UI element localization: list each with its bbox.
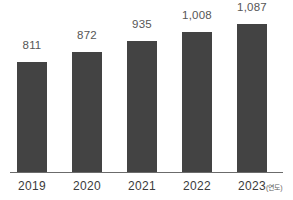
bar-value-2020: 872	[77, 30, 97, 42]
bar-group-2020: 872	[72, 0, 102, 173]
category-label-2019: 2019	[6, 179, 58, 193]
bar-value-2019: 811	[23, 40, 42, 52]
plot-area: 811 872 935 1,008 1,087	[0, 0, 293, 173]
bar-value-2021: 935	[132, 19, 152, 31]
category-label-2021: 2021	[116, 179, 168, 193]
bar-2022[interactable]	[182, 32, 212, 173]
bar-group-2021: 935	[127, 0, 157, 173]
bar-2020[interactable]	[72, 52, 102, 173]
bar-chart: 811 872 935 1,008 1,087 2019 2020 2021 2…	[0, 0, 293, 200]
bar-group-2019: 811	[17, 0, 47, 173]
bar-group-2023: 1,087	[237, 0, 267, 173]
bar-value-2022: 1,008	[182, 10, 212, 22]
x-axis-labels: 2019 2020 2021 2022 2023 (연도)	[0, 179, 293, 200]
bar-2023[interactable]	[237, 24, 267, 173]
x-axis-unit-label: (연도)	[266, 183, 283, 192]
x-axis-line	[10, 172, 283, 173]
bar-2019[interactable]	[17, 62, 47, 173]
bar-group-2022: 1,008	[182, 0, 212, 173]
category-label-2022: 2022	[171, 179, 223, 193]
category-label-2020: 2020	[61, 179, 113, 193]
bar-2021[interactable]	[127, 41, 157, 173]
bar-value-2023: 1,087	[237, 2, 267, 14]
